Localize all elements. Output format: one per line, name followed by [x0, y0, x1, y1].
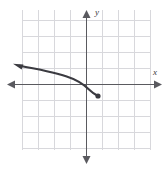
y-axis-label: y — [94, 7, 99, 17]
coordinate-plane-svg: y x — [0, 0, 167, 172]
graph-figure: y x — [0, 0, 167, 172]
curve-endpoint-dot — [95, 93, 100, 98]
x-axis-label: x — [152, 67, 157, 77]
